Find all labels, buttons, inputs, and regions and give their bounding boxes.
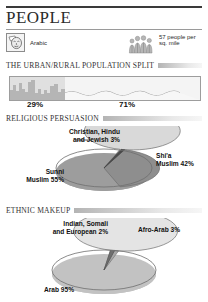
- section-header-religion: RELIGIOUS PERSUASION: [6, 113, 202, 124]
- people-crowd-icon: [128, 33, 154, 58]
- fact-row: Arabic 57 people per sq. mile: [6, 33, 202, 57]
- population-density-fact: 57 people per sq. mile: [128, 33, 202, 58]
- ethnic-label-afro-arab: Afro-Arab 3%: [138, 226, 208, 234]
- language-fact: Arabic: [6, 33, 47, 56]
- face-head-icon: [6, 33, 25, 56]
- people-infographic-page: PEOPLE Arabic: [0, 0, 208, 302]
- section-header-ethnic: ETHNIC MAKEUP: [6, 205, 202, 216]
- section-title-ethnic: ETHNIC MAKEUP: [6, 206, 70, 215]
- section-rule: [103, 116, 202, 121]
- title-divider: [6, 29, 202, 30]
- religion-label-shia: Shi'a Muslim 42%: [156, 152, 208, 167]
- section-rule: [74, 208, 202, 213]
- ethnic-label-minority: Indian, Somali and European 2%: [10, 220, 108, 235]
- page-title: PEOPLE: [6, 8, 71, 28]
- section-title-urban-rural: THE URBAN/RURAL POPULATION SPLIT: [6, 61, 154, 70]
- ethnic-label-arab: Arab 95%: [44, 286, 114, 294]
- language-label: Arabic: [30, 40, 47, 46]
- section-title-religion: RELIGIOUS PERSUASION: [6, 114, 99, 123]
- ethnic-pie-chart: Indian, Somali and European 2% Afro-Arab…: [0, 218, 208, 302]
- religion-label-sunni: Sunni Muslim 55%: [0, 168, 64, 183]
- section-rule: [158, 63, 202, 68]
- rural-percent-label: 71%: [119, 100, 135, 109]
- population-density-label: 57 people per sq. mile: [159, 34, 202, 47]
- urban-rural-labels: 29% 71%: [9, 100, 199, 112]
- urban-rural-chart: [9, 76, 201, 101]
- section-header-urban-rural: THE URBAN/RURAL POPULATION SPLIT: [6, 60, 202, 71]
- urban-percent-label: 29%: [27, 100, 43, 109]
- religion-label-minority: Christian, Hindu and Jewish 3%: [22, 128, 120, 143]
- religion-pie-chart: Christian, Hindu and Jewish 3% Shi'a Mus…: [0, 126, 208, 194]
